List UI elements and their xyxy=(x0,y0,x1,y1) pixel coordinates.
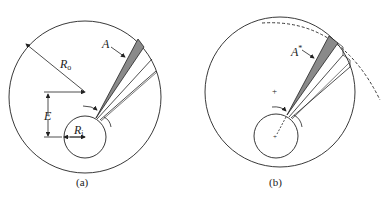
label-area-b: A* xyxy=(290,44,302,59)
area-pointer-b xyxy=(302,50,314,58)
label-outer-radius: Ro xyxy=(59,57,71,72)
label-eccentricity: E xyxy=(43,109,52,123)
caption-a: (a) xyxy=(76,176,89,189)
rotation-arrow-b1 xyxy=(272,107,286,111)
dashed-center-line-b xyxy=(277,117,286,134)
area-pointer-a xyxy=(111,47,125,57)
outer-center-mark-b: + xyxy=(272,86,277,96)
panel-a: Ro E Ri A (a) xyxy=(9,21,161,189)
inner-center-mark-b: + xyxy=(273,133,277,141)
rotation-arrow-a1 xyxy=(83,106,97,110)
outer-radius-arrow xyxy=(26,44,84,91)
rotation-arrow-a2 xyxy=(104,117,111,127)
caption-b: (b) xyxy=(269,176,282,189)
figure-canvas: Ro E Ri A (a) + + A* (b) xyxy=(0,0,392,197)
label-inner-radius: Ri xyxy=(73,123,84,138)
label-area-a: A xyxy=(101,37,110,51)
panel-b: + + A* (b) xyxy=(205,17,380,189)
